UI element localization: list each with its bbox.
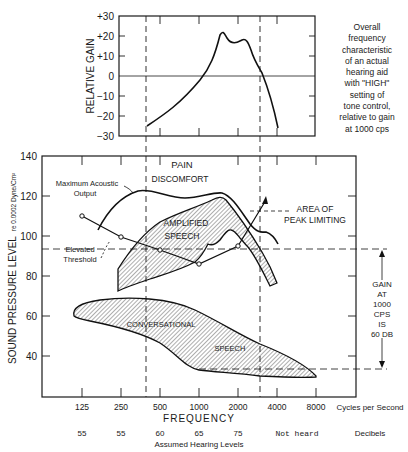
amplified-label-2: SPEECH: [165, 231, 200, 241]
bottom-ylabel-unit: re 0.0002 Dyne/Cm²: [10, 172, 18, 231]
gain-statement: GAIN AT 1000 CPS IS 60 DB: [371, 280, 393, 339]
hearing-level: 60: [156, 429, 165, 438]
bottom-ytick: 100: [20, 231, 37, 242]
svg-text:60 DB: 60 DB: [371, 330, 393, 339]
xtick: 125: [75, 402, 89, 412]
top-chart-caption: Overall frequency characteristic of an a…: [329, 22, 405, 135]
amplified-label-1: AMPLIFIED: [164, 218, 209, 228]
hearing-level: 55: [78, 429, 87, 438]
bottom-ytick: 140: [20, 151, 37, 162]
conversational-label: CONVERSATIONAL: [127, 320, 196, 329]
max-output-leader: [124, 186, 133, 193]
discomfort-label: DISCOMFORT: [152, 174, 209, 184]
svg-text:GAIN: GAIN: [372, 280, 392, 289]
top-ytick: −10: [97, 91, 114, 102]
xtick: 500: [153, 402, 167, 412]
svg-text:IS: IS: [378, 320, 386, 329]
x-axis-title: FREQUENCY: [163, 413, 235, 424]
threshold-label-2: Threshold: [63, 255, 96, 264]
bottom-ylabel: SOUND PRESSURE LEVEL: [7, 236, 18, 364]
pain-label: PAIN: [171, 159, 193, 170]
xtick: 250: [114, 402, 128, 412]
not-heard-label: Not heard: [275, 429, 318, 438]
bottom-ytick: 60: [26, 311, 38, 322]
top-ytick: +20: [97, 31, 114, 42]
max-output-label-1: Maximum Acoustic: [56, 179, 119, 188]
speech-label: SPEECH: [215, 344, 246, 353]
arrow-down-icon: [379, 361, 385, 368]
svg-text:AT: AT: [377, 290, 387, 299]
top-ytick: 0: [108, 71, 114, 82]
top-ytick: −30: [97, 131, 114, 142]
xtick: 8000: [307, 402, 326, 412]
threshold-leader: [101, 241, 110, 258]
top-ytick: −20: [97, 111, 114, 122]
sound-pressure-chart: 140 120 100 80 60 40 SOUND PRESSURE LEVE…: [7, 151, 404, 449]
svg-text:1000: 1000: [373, 300, 391, 309]
levels-unit: Decibels: [355, 429, 386, 438]
svg-text:CPS: CPS: [374, 310, 390, 319]
max-output-label-2: Output: [74, 189, 97, 198]
xtick: 2000: [229, 402, 248, 412]
conversational-speech-area: [74, 298, 316, 377]
top-ytick: +10: [97, 51, 114, 62]
arrow-head-icon: [262, 196, 268, 204]
xtick: 4000: [268, 402, 287, 412]
bottom-ytick: 120: [20, 191, 37, 202]
top-ytick: +30: [97, 11, 114, 22]
x-unit-label: Cycles per Second: [336, 403, 403, 412]
bottom-ytick: 40: [26, 351, 38, 362]
threshold-label-1: Elevated: [65, 245, 94, 254]
arrow-up-icon: [379, 250, 385, 257]
xtick: 1000: [190, 402, 209, 412]
top-ylabel: RELATIVE GAIN: [85, 39, 96, 114]
peak-limiting-label-2: PEAK LIMITING: [284, 215, 346, 225]
bottom-ytick: 80: [26, 271, 38, 282]
peak-limiting-label-1: AREA OF: [297, 204, 334, 214]
gain-curve: [147, 32, 278, 128]
hearing-level: 55: [117, 429, 126, 438]
relative-gain-chart: +30 +20 +10 0 −10 −20 −30 RELATIVE GAIN: [85, 11, 315, 142]
hearing-level: 75: [234, 429, 243, 438]
levels-caption: Assumed Hearing Levels: [155, 440, 244, 449]
hearing-level: 65: [195, 429, 204, 438]
